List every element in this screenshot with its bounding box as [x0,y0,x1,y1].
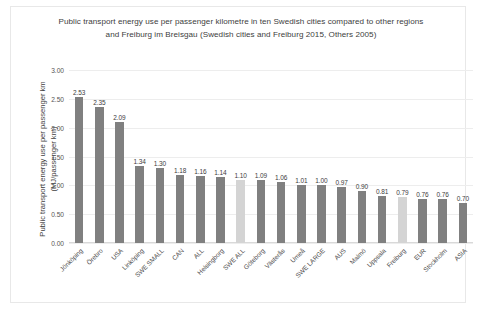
bar-group[interactable]: 0.97AUS [337,70,345,243]
gridline [69,70,473,71]
bar-value-label: 1.18 [174,167,186,174]
bar-value-label: 0.97 [336,179,348,186]
bar[interactable] [277,182,285,243]
x-tick-label: SWE ALL [221,247,245,271]
x-tick-label: EUR [413,247,428,262]
x-tick-label: AUS [332,247,346,261]
gridline [69,157,473,158]
x-tick-label: USA [110,247,124,261]
bar[interactable] [156,168,164,243]
bar-group[interactable]: 0.76EUR [418,70,426,243]
bar-group[interactable]: 1.00SWE LARGE [317,70,325,243]
x-tick-label: Örebro [85,247,104,266]
y-tick-label: 0.50 [51,211,64,218]
y-tick-label: 3.00 [51,67,64,74]
bar-group[interactable]: 1.18CAN [176,70,184,243]
bar[interactable] [75,97,83,243]
x-tick-label: Freiburg [385,247,407,269]
bar-group[interactable]: 1.34Linköping [135,70,143,243]
bar-value-label: 1.00 [315,177,327,184]
bar[interactable] [135,166,143,243]
bar-group[interactable]: 1.10SWE ALL [236,70,244,243]
bar[interactable] [438,199,446,243]
bar[interactable] [95,107,103,243]
bar[interactable] [317,185,325,243]
bar[interactable] [236,180,244,243]
x-tick-label: ALL [192,247,205,260]
gridline [69,185,473,186]
bar-group[interactable]: 1.16ALL [196,70,204,243]
bar-group[interactable]: 1.06Västerås [277,70,285,243]
bar-value-label: 1.09 [255,172,267,179]
bar-value-label: 0.70 [457,195,469,202]
x-tick-label: Västerås [263,247,286,270]
bar-value-label: 0.76 [437,191,449,198]
bar-group[interactable]: 2.53Jönköping [75,70,83,243]
bar-value-label: 2.53 [73,89,85,96]
plot-area: 0.000.501.001.502.002.503.00 2.53Jönköpi… [69,70,473,243]
x-tick-label: Umeå [289,247,306,264]
bar-group[interactable]: 0.76Stockholm [438,70,446,243]
gridline [69,214,473,215]
bar-value-label: 0.76 [416,191,428,198]
gridline [69,243,473,244]
bar-group[interactable]: 1.09Göteborg [257,70,265,243]
bar[interactable] [337,187,345,243]
bar-value-label: 1.14 [214,169,226,176]
bar-value-label: 1.10 [235,172,247,179]
chart-title: Public transport energy use per passenge… [53,15,429,41]
x-tick-label: ASIA [453,247,468,262]
bar-group[interactable]: 2.35Örebro [95,70,103,243]
bar-value-label: 1.34 [134,158,146,165]
bar-group[interactable]: 0.90Malmö [358,70,366,243]
bar[interactable] [398,197,406,243]
bar[interactable] [115,122,123,243]
bar[interactable] [358,191,366,243]
bar-group[interactable]: 2.09USA [115,70,123,243]
x-tick-label: Göteborg [242,247,266,271]
bar[interactable] [459,203,467,243]
x-tick-label: Malmö [348,247,367,266]
bar-group[interactable]: 1.30SWE SMALL [156,70,164,243]
bar[interactable] [216,177,224,243]
bar-value-label: 1.30 [154,160,166,167]
x-axis-line [69,242,473,243]
bar-value-label: 2.09 [113,114,125,121]
y-tick-label: 2.50 [51,95,64,102]
bar[interactable] [196,176,204,243]
bar[interactable] [176,175,184,243]
bar-group[interactable]: 1.14Helsingborg [216,70,224,243]
bar-value-label: 0.90 [356,183,368,190]
gridline [69,128,473,129]
bar[interactable] [257,180,265,243]
bar[interactable] [418,199,426,243]
gridline [69,99,473,100]
bar-value-label: 1.01 [295,177,307,184]
chart-figure: Public transport energy use per passenge… [10,6,466,303]
y-tick-label: 2.00 [51,124,64,131]
bar-value-label: 1.16 [194,168,206,175]
y-tick-label: 1.50 [51,153,64,160]
bar-group[interactable]: 0.81Uppsala [378,70,386,243]
x-tick-label: CAN [170,247,185,262]
bar-group[interactable]: 0.70ASIA [459,70,467,243]
bar-value-label: 0.79 [396,189,408,196]
y-tick-label: 1.00 [51,182,64,189]
bar-group[interactable]: 1.01Umeå [297,70,305,243]
bar-value-label: 0.81 [376,188,388,195]
bar[interactable] [378,196,386,243]
bar[interactable] [297,185,305,243]
y-tick-label: 0.00 [51,240,64,247]
x-tick-label: Uppsala [365,247,387,269]
bar-value-label: 1.06 [275,174,287,181]
bar-value-label: 2.35 [93,99,105,106]
bar-group[interactable]: 0.79Freiburg [398,70,406,243]
